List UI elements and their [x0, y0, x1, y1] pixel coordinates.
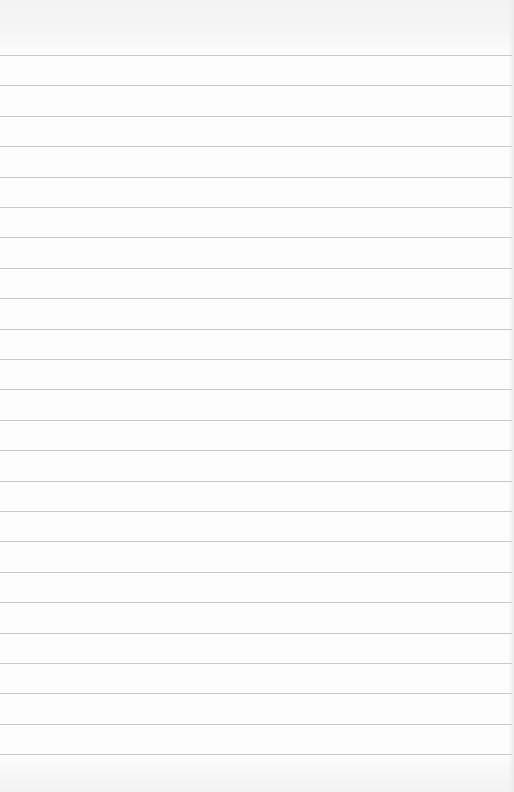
- ruled-line: [0, 146, 512, 147]
- top-margin-band: [0, 0, 514, 54]
- ruled-line: [0, 572, 512, 573]
- ruled-line: [0, 541, 512, 542]
- ruled-line: [0, 85, 512, 86]
- right-edge-shadow: [508, 0, 514, 792]
- ruled-line: [0, 116, 512, 117]
- ruled-line: [0, 420, 512, 421]
- ruled-line: [0, 450, 512, 451]
- ruled-line: [0, 268, 512, 269]
- bottom-margin-band: [0, 756, 514, 792]
- ruled-line: [0, 237, 512, 238]
- ruled-line: [0, 329, 512, 330]
- ruled-line: [0, 207, 512, 208]
- ruled-line: [0, 298, 512, 299]
- ruled-line: [0, 633, 512, 634]
- ruled-line: [0, 177, 512, 178]
- ruled-line: [0, 511, 512, 512]
- ruled-line: [0, 663, 512, 664]
- ruled-line: [0, 602, 512, 603]
- ruled-line: [0, 754, 512, 755]
- ruled-line: [0, 55, 512, 56]
- ruled-line: [0, 481, 512, 482]
- lined-paper-sheet: [0, 0, 514, 792]
- ruled-line: [0, 389, 512, 390]
- ruled-line: [0, 359, 512, 360]
- ruled-line: [0, 693, 512, 694]
- ruled-line: [0, 724, 512, 725]
